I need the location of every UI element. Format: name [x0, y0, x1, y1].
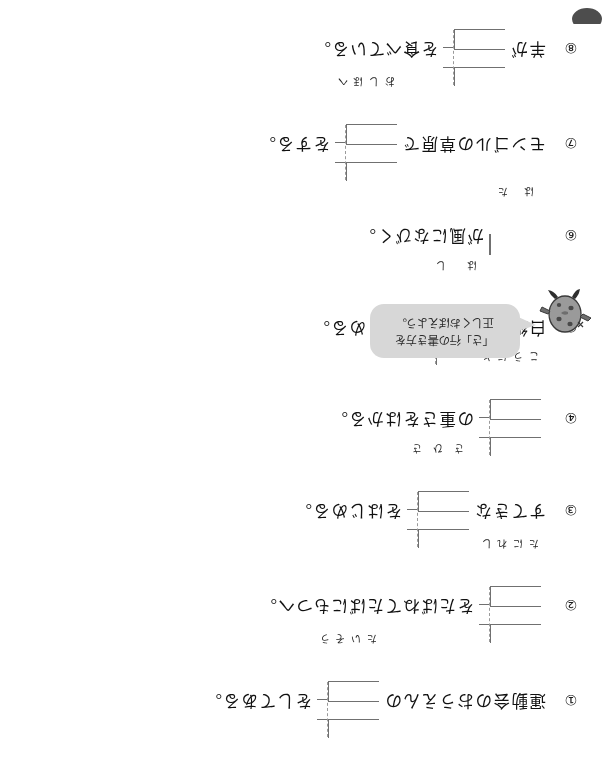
hint-char: し	[435, 260, 445, 270]
hint-char: し	[481, 538, 491, 548]
item-text-after-8: を食べている。	[311, 39, 440, 57]
item-text-after-7: をする。	[256, 134, 332, 152]
answer-box-wrap-8: ほ へ き し	[443, 0, 505, 102]
hint-char: ほ	[353, 76, 363, 86]
hint-char: い	[350, 633, 360, 643]
bean-character-icon	[538, 286, 592, 338]
hint-row-2: た に れ し	[479, 531, 541, 551]
hint-char: れ	[497, 538, 507, 548]
item-text-before-7: モンゴルの草原で	[400, 134, 548, 152]
item-text-after-2: をたばねてたばにもつへ。	[257, 596, 476, 614]
hint-char: お	[384, 76, 394, 86]
hint-row-5: は し	[425, 253, 487, 273]
item-number-6: ⑥	[554, 224, 588, 246]
page-corner-mark	[572, 8, 602, 24]
hint-char: さ	[412, 443, 422, 453]
item-number-3: ③	[554, 499, 588, 521]
balloon-line-2: 正しくおぼえよう。	[396, 314, 494, 331]
item-text-before-3: すてきな	[472, 501, 548, 519]
hint-char: し	[368, 76, 378, 86]
answer-box-3[interactable]	[407, 491, 469, 548]
answer-box-2[interactable]	[479, 586, 541, 643]
hint-row-6: は た	[489, 179, 541, 199]
box-divider-2	[489, 587, 490, 642]
balloon-line-1: 「さ」行の書き方を	[396, 331, 495, 348]
worksheet-item-8: ⑧ 羊が ほ へ き し を食べている。	[0, 0, 612, 96]
mascot-group: 「さ」行の書き方を 正しくおぼえよう。	[354, 280, 594, 358]
hint-row-3: さ ひ さ	[407, 436, 469, 456]
hint-char: へ	[337, 76, 347, 86]
answer-box-wrap-2: た に れ し	[479, 551, 541, 660]
worksheet-item-6: ⑥ は た が風になびく。	[0, 187, 612, 283]
speech-balloon: 「さ」行の書き方を 正しくおぼえよう。	[370, 304, 520, 358]
item-text-after-6: が風になびく。	[356, 226, 486, 244]
worksheet-item-7: ⑦ モンゴルの草原で お し ほ へ をする。	[0, 95, 612, 191]
hint-char: う	[319, 633, 329, 643]
box-divider-3	[417, 492, 418, 547]
item-text-after-4: の重さをはかる。	[328, 409, 476, 427]
worksheet-item-2: ② た に れ し をたばねてたばにもつへ。	[0, 557, 612, 653]
item-number-4: ④	[554, 407, 588, 429]
answer-box-1[interactable]	[317, 681, 379, 738]
hint-char: た	[528, 538, 538, 548]
answer-box-6[interactable]	[489, 234, 491, 255]
item-number-7: ⑦	[554, 132, 588, 154]
hint-char: は	[523, 186, 533, 196]
answer-box-wrap-3: さ ひ さ	[407, 456, 469, 565]
answer-box-7[interactable]	[335, 124, 397, 181]
answer-box-wrap-7: お し ほ へ	[335, 89, 397, 198]
box-divider-4	[489, 400, 490, 455]
box-divider-8	[453, 30, 454, 85]
item-text-before-8: 羊が	[508, 39, 548, 57]
hint-char: た	[366, 633, 376, 643]
answer-box-4[interactable]	[479, 399, 541, 456]
answer-box-8[interactable]	[443, 29, 505, 86]
item-sentence-1: 運動会のおうえんの た い そ う をしてある。	[202, 646, 548, 755]
worksheet-item-4: ④ こ う に と の重さをはかる。	[0, 370, 612, 466]
worksheet-item-1: ① 運動会のおうえんの た い そ う をしてある。	[0, 652, 612, 748]
worksheet-page: ⑧ 羊が ほ へ き し を食べている。 ⑦ モンゴルの草原で	[0, 0, 612, 766]
answer-box-wrap-6: は た	[489, 199, 541, 272]
hint-char: に	[512, 538, 522, 548]
hint-row-1: た い そ う	[317, 626, 379, 646]
hint-char: さ	[453, 443, 463, 453]
box-divider-1	[327, 682, 328, 737]
item-text-before-1: 運動会のおうえんの	[382, 691, 548, 709]
item-sentence-2: た に れ し をたばねてたばにもつへ。	[257, 551, 548, 660]
answer-box-wrap-1: た い そ う	[317, 646, 379, 755]
item-number-1: ①	[554, 689, 588, 711]
item-number-8: ⑧	[554, 37, 588, 59]
item-text-after-3: をはじめる。	[292, 501, 404, 519]
hint-char: た	[497, 186, 507, 196]
hint-row-7: お し ほ へ	[335, 69, 397, 89]
item-number-2: ②	[554, 594, 588, 616]
hint-char: は	[466, 260, 476, 270]
box-divider-7	[345, 125, 346, 180]
hint-char: そ	[335, 633, 345, 643]
page-corner-wrap	[552, 0, 612, 24]
hint-char: ひ	[433, 443, 443, 453]
item-text-after-1: をしてある。	[202, 691, 314, 709]
